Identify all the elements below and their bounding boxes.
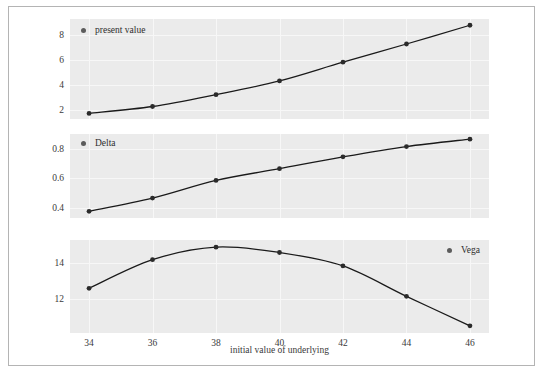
legend-present-value: present value (81, 26, 145, 36)
ytick-label: 8 (59, 30, 64, 40)
chart-canvas: 2468 present value 0.40.60.8 Delta 1214 … (0, 0, 543, 374)
series-line (89, 25, 470, 113)
data-point-marker (87, 286, 92, 291)
data-point-marker (341, 60, 346, 65)
series-line (89, 139, 470, 211)
figure-frame: 2468 present value 0.40.60.8 Delta 1214 … (8, 6, 535, 366)
xtick-label: 38 (211, 338, 221, 348)
xaxis-label: initial value of underlying (230, 345, 329, 355)
legend-marker-icon (81, 141, 86, 146)
legend-delta: Delta (81, 139, 116, 149)
ytick-label: 0.6 (52, 173, 64, 183)
legend-marker-icon (81, 28, 86, 33)
data-point-marker (468, 323, 473, 328)
data-point-marker (404, 42, 409, 47)
series-line (89, 247, 470, 326)
ytick-label: 0.4 (52, 203, 64, 213)
series-delta (70, 134, 489, 218)
ytick-label: 12 (55, 294, 65, 304)
data-point-marker (87, 209, 92, 214)
ytick-label: 2 (59, 105, 64, 115)
panel-delta: 0.40.60.8 Delta (70, 134, 489, 218)
legend-marker-icon (447, 248, 452, 253)
panel-vega: 1214 34363840424446 Vega initial value o… (70, 240, 489, 333)
data-point-marker (214, 92, 219, 97)
panel-present-value: 2468 present value (70, 19, 489, 119)
xtick-label: 36 (148, 338, 158, 348)
data-point-marker (150, 104, 155, 109)
ytick-label: 0.8 (52, 144, 64, 154)
legend-label-present-value: present value (95, 26, 145, 36)
data-point-marker (214, 245, 219, 250)
data-point-marker (277, 250, 282, 255)
series-vega (70, 240, 489, 333)
data-point-marker (341, 154, 346, 159)
legend-label-delta: Delta (95, 139, 116, 149)
xtick-label: 42 (338, 338, 348, 348)
data-point-marker (150, 257, 155, 262)
ytick-label: 4 (59, 80, 64, 90)
data-point-marker (214, 178, 219, 183)
xtick-label: 34 (84, 338, 94, 348)
legend-vega: Vega (447, 246, 480, 256)
data-point-marker (468, 23, 473, 28)
data-point-marker (468, 137, 473, 142)
data-point-marker (341, 264, 346, 269)
data-point-marker (277, 166, 282, 171)
xtick-label: 44 (402, 338, 412, 348)
data-point-marker (150, 196, 155, 201)
ytick-label: 6 (59, 55, 64, 65)
ytick-label: 14 (55, 258, 65, 268)
data-point-marker (404, 294, 409, 299)
legend-label-vega: Vega (461, 246, 480, 256)
data-point-marker (404, 144, 409, 149)
data-point-marker (87, 111, 92, 116)
xtick-label: 46 (465, 338, 475, 348)
data-point-marker (277, 78, 282, 83)
